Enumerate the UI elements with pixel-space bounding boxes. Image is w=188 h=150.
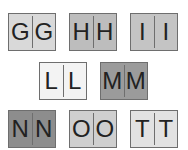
- card-left-letter: L: [40, 63, 63, 99]
- card-m[interactable]: M M: [100, 62, 148, 100]
- card-i[interactable]: I I: [130, 13, 178, 51]
- card-right-letter: H: [94, 14, 117, 50]
- card-right-letter: M: [125, 63, 148, 99]
- card-g[interactable]: G G: [8, 13, 56, 51]
- card-left-letter: I: [131, 14, 154, 50]
- card-left-letter: N: [9, 111, 32, 147]
- card-left-letter: H: [70, 14, 93, 50]
- card-left-letter: O: [70, 111, 93, 147]
- card-t[interactable]: T T: [130, 110, 178, 148]
- card-right-letter: N: [33, 111, 56, 147]
- card-right-letter: O: [94, 111, 117, 147]
- card-right-letter: L: [64, 63, 87, 99]
- card-left-letter: M: [101, 63, 124, 99]
- card-h[interactable]: H H: [69, 13, 117, 51]
- card-right-letter: G: [33, 14, 56, 50]
- card-right-letter: T: [155, 111, 178, 147]
- card-n[interactable]: N N: [8, 110, 56, 148]
- card-left-letter: G: [9, 14, 32, 50]
- card-left-letter: T: [131, 111, 154, 147]
- card-right-letter: I: [155, 14, 178, 50]
- card-l[interactable]: L L: [39, 62, 87, 100]
- card-o[interactable]: O O: [69, 110, 117, 148]
